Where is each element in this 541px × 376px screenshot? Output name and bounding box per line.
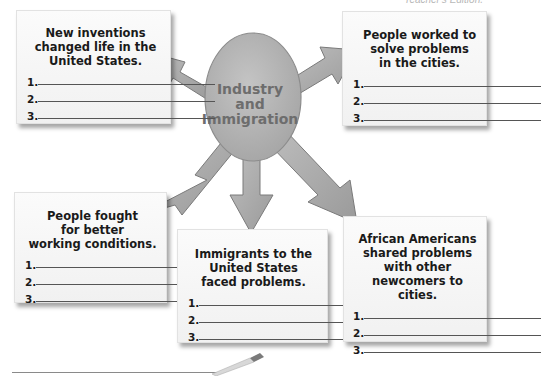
answer-number: 1. (25, 259, 36, 271)
answer-number: 1. (353, 310, 364, 322)
answer-row: 2. (27, 88, 164, 105)
answer-input[interactable] (38, 83, 215, 85)
answer-input[interactable] (364, 334, 541, 336)
answer-row: 1. (27, 71, 164, 88)
box-cities: People worked to solve problems in the c… (342, 11, 487, 126)
answer-number: 1. (353, 78, 364, 90)
answer-input[interactable] (364, 85, 541, 87)
answer-row: 3. (353, 107, 486, 124)
box-inventions: New inventions changed life in the Unite… (16, 10, 171, 124)
answer-number: 3. (353, 344, 364, 356)
box-title: New inventions changed life in the Unite… (27, 26, 164, 68)
answer-input[interactable] (364, 102, 541, 104)
answer-row: 2. (353, 322, 482, 339)
answer-number: 2. (27, 93, 38, 105)
pencil-icon (210, 352, 270, 376)
answer-row: 3. (353, 339, 482, 356)
box-african-americans: African Americans shared problems with o… (343, 216, 487, 342)
answer-input[interactable] (364, 351, 541, 353)
box-title: People fought for better working conditi… (25, 209, 160, 251)
answer-row: 3. (188, 326, 319, 343)
answer-row: 2. (25, 271, 160, 288)
answer-row: 1. (353, 305, 482, 322)
box-title: African Americans shared problems with o… (353, 232, 482, 302)
answer-row: 3. (27, 105, 164, 122)
answer-input[interactable] (364, 119, 541, 121)
center-topic-label: Industry and Immigration (200, 82, 300, 127)
answer-row: 2. (353, 90, 486, 107)
bottom-rule (12, 372, 222, 373)
answer-number: 1. (27, 76, 38, 88)
answer-row: 1. (188, 292, 319, 309)
answer-input[interactable] (364, 317, 541, 319)
box-working-conditions: People fought for better working conditi… (14, 192, 167, 303)
answer-input[interactable] (38, 100, 215, 102)
answer-number: 2. (25, 276, 36, 288)
box-immigrants: Immigrants to the United States faced pr… (177, 229, 328, 343)
answer-number: 2. (353, 327, 364, 339)
answer-number: 3. (27, 110, 38, 122)
answer-number: 3. (188, 331, 199, 343)
answer-row: 2. (188, 309, 319, 326)
answer-number: 3. (353, 112, 364, 124)
answer-input[interactable] (38, 117, 215, 119)
answer-row: 1. (353, 73, 486, 90)
arrow-to-immigrants (230, 155, 273, 233)
answer-number: 2. (188, 314, 199, 326)
answer-number: 1. (188, 297, 199, 309)
answer-row: 3. (25, 288, 160, 305)
answer-row: 1. (25, 254, 160, 271)
box-title: People worked to solve problems in the c… (353, 28, 486, 70)
answer-number: 3. (25, 293, 36, 305)
answer-number: 2. (353, 95, 364, 107)
box-title: Immigrants to the United States faced pr… (188, 247, 319, 289)
